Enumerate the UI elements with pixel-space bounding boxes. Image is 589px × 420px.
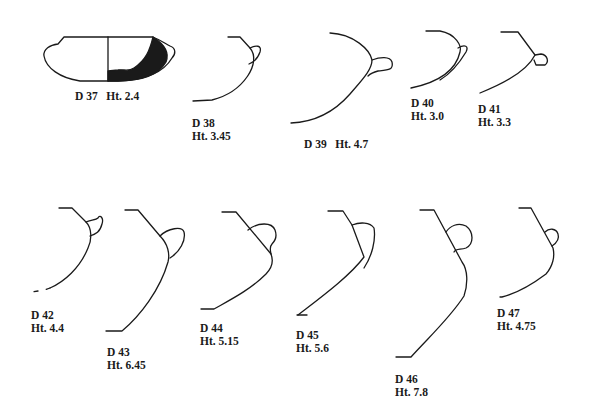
pottery-profiles-drawing	[0, 0, 589, 420]
vessel-height: Ht. 4.75	[497, 320, 536, 333]
vessel-d43-drawing	[106, 210, 184, 331]
vessel-id: D 38	[192, 117, 231, 130]
label-d43: D 43Ht. 6.45	[107, 346, 146, 372]
vessel-id: D 46	[395, 373, 428, 386]
vessel-id: D 41	[478, 103, 511, 116]
vessel-d42-drawing	[32, 208, 103, 292]
vessel-id: D 43	[107, 346, 146, 359]
vessel-height: Ht. 6.45	[107, 359, 146, 372]
vessel-d39-drawing	[291, 33, 392, 123]
vessel-d47-drawing	[500, 208, 558, 297]
label-d44: D 44Ht. 5.15	[200, 322, 239, 348]
vessel-height: Ht. 3.45	[192, 130, 231, 143]
label-d40: D 40Ht. 3.0	[411, 97, 444, 123]
vessel-id: D 37	[75, 90, 98, 102]
label-d47: D 47Ht. 4.75	[497, 307, 536, 333]
label-d38: D 38Ht. 3.45	[192, 117, 231, 143]
label-d37: D 37 Ht. 2.4	[75, 90, 139, 103]
vessel-height: Ht. 4.7	[335, 138, 368, 150]
vessel-d40-drawing	[411, 31, 467, 88]
vessel-id: D 44	[200, 322, 239, 335]
vessel-id: D 45	[296, 329, 329, 342]
vessel-d44-drawing	[201, 212, 276, 309]
vessel-d37-drawing	[44, 37, 175, 81]
vessel-d45-drawing	[297, 211, 375, 315]
vessel-height: Ht. 2.4	[106, 90, 139, 102]
vessel-d41-drawing	[480, 32, 547, 93]
vessel-id: D 42	[31, 309, 64, 322]
vessel-d46-drawing	[396, 210, 472, 357]
vessel-d38-drawing	[193, 37, 260, 101]
vessel-id: D 47	[497, 307, 536, 320]
vessel-height: Ht. 5.15	[200, 335, 239, 348]
vessel-id: D 39	[304, 138, 327, 150]
label-d39: D 39 Ht. 4.7	[304, 138, 368, 151]
vessel-height: Ht. 5.6	[296, 342, 329, 355]
label-d41: D 41Ht. 3.3	[478, 103, 511, 129]
vessel-height: Ht. 7.8	[395, 386, 428, 399]
vessel-height: Ht. 4.4	[31, 322, 64, 335]
vessel-id: D 40	[411, 97, 444, 110]
label-d42: D 42Ht. 4.4	[31, 309, 64, 335]
vessel-height: Ht. 3.3	[478, 116, 511, 129]
label-d46: D 46Ht. 7.8	[395, 373, 428, 399]
vessel-height: Ht. 3.0	[411, 110, 444, 123]
label-d45: D 45Ht. 5.6	[296, 329, 329, 355]
